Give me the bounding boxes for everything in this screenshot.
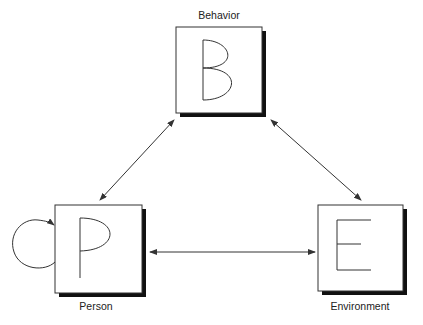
triadic-diagram [0, 0, 423, 325]
environment-label: Environment [331, 300, 390, 312]
arrow-behavior-environment [271, 120, 361, 200]
self-loop-arrow [13, 220, 55, 268]
behavior-node [176, 27, 266, 117]
person-node [55, 205, 146, 297]
person-label: Person [79, 300, 112, 312]
behavior-label: Behavior [198, 9, 239, 21]
environment-node [318, 205, 407, 295]
arrow-behavior-person [100, 120, 174, 200]
